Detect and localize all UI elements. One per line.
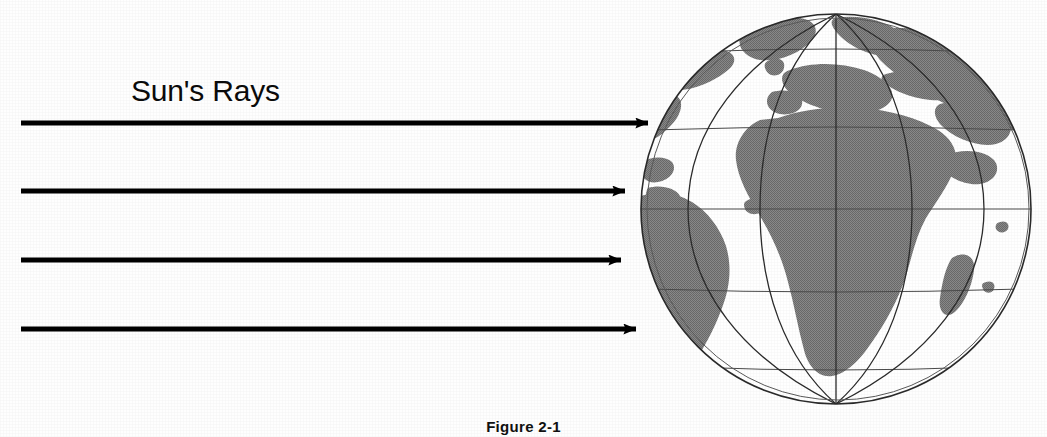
figure-caption: Figure 2-1 xyxy=(0,419,1047,437)
patagonia-tip-landmass xyxy=(654,385,675,402)
sun-rays-group xyxy=(21,123,648,329)
sun-rays-label: Sun's Rays xyxy=(131,76,280,106)
earth-globe xyxy=(635,14,1031,404)
figure-container: Sun's Rays Figure 2-1 xyxy=(0,0,1047,437)
sun-rays-globe-diagram xyxy=(0,0,1047,437)
iberia-landmass xyxy=(767,90,802,114)
falklands-landmass xyxy=(687,379,699,389)
